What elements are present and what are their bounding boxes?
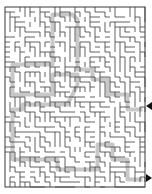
exit-arrow-icon <box>146 174 152 182</box>
entrance-arrow-icon <box>146 102 152 110</box>
maze-board <box>0 0 152 194</box>
